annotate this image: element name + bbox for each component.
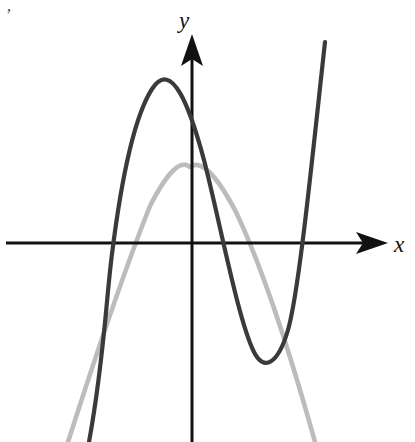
x-axis-label: x [393,232,405,257]
corner-apostrophe-mark: ’ [6,5,12,24]
y-axis-label: y [177,8,190,33]
figure-background [0,0,415,442]
coordinate-plane-svg: x y ’ [0,0,415,442]
graph-figure: x y ’ [0,0,415,442]
